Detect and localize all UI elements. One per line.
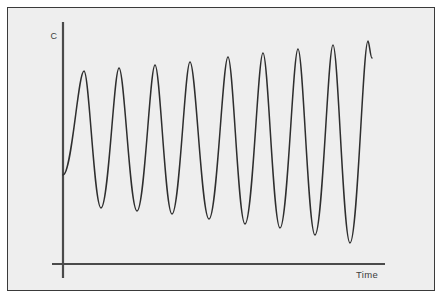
oscillation-curve	[63, 41, 372, 243]
figure-root: C Time	[0, 0, 442, 298]
x-axis-label: Time	[356, 269, 378, 280]
y-axis-label: C	[51, 31, 58, 41]
oscillation-chart: C Time	[0, 0, 442, 298]
